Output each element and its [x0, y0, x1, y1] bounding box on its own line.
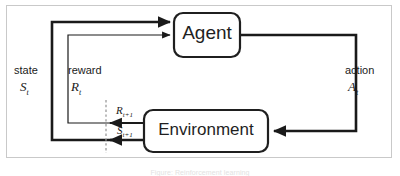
figure-caption: Figure: Reinforcement learning	[0, 168, 400, 176]
action-symbol-base: A	[348, 79, 356, 94]
reward-label-symbol: Rt	[71, 80, 81, 100]
agent-box-label: Agent	[174, 21, 240, 45]
action-label-symbol: At	[348, 80, 358, 100]
state-label-word: state	[14, 64, 38, 76]
state-label-symbol: St	[20, 80, 29, 100]
next-reward-label-symbol: Rt+1	[116, 104, 133, 121]
state-symbol-subscript: t	[27, 88, 29, 97]
figure-canvas: Agent Environment state St reward Rt act…	[0, 0, 400, 176]
reward-label-word: reward	[68, 64, 102, 76]
action-symbol-subscript: t	[356, 88, 358, 97]
environment-box-label: Environment	[144, 119, 268, 141]
next-state-label-symbol: St+1	[117, 124, 133, 141]
reward-symbol-base: R	[71, 79, 79, 94]
reward-symbol-subscript: t	[79, 88, 81, 97]
action-label-word: action	[345, 64, 374, 76]
next-state-symbol-subscript: t+1	[123, 131, 133, 139]
next-reward-symbol-subscript: t+1	[123, 111, 133, 119]
next-reward-symbol-base: R	[116, 104, 123, 116]
